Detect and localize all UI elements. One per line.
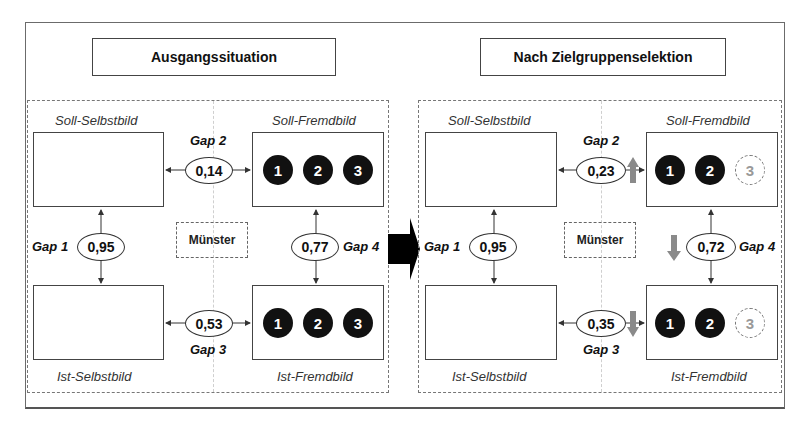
trend-up-arrow-icon — [627, 157, 639, 183]
gap2-label: Gap 2 — [583, 133, 619, 148]
trend-down-arrow-icon — [667, 235, 681, 261]
city-label: Münster — [564, 222, 636, 258]
gap3-value: 0,35 — [576, 310, 626, 337]
gap1-value: 0,95 — [469, 233, 517, 261]
gap1-label: Gap 1 — [424, 239, 460, 254]
trend-down-arrow-icon — [627, 311, 639, 337]
gap4-value: 0,72 — [686, 233, 736, 261]
gap3-label: Gap 3 — [583, 342, 619, 357]
gap4-label: Gap 4 — [739, 239, 775, 254]
gap2-value: 0,23 — [576, 157, 626, 184]
connector-arrows-right — [0, 0, 807, 422]
